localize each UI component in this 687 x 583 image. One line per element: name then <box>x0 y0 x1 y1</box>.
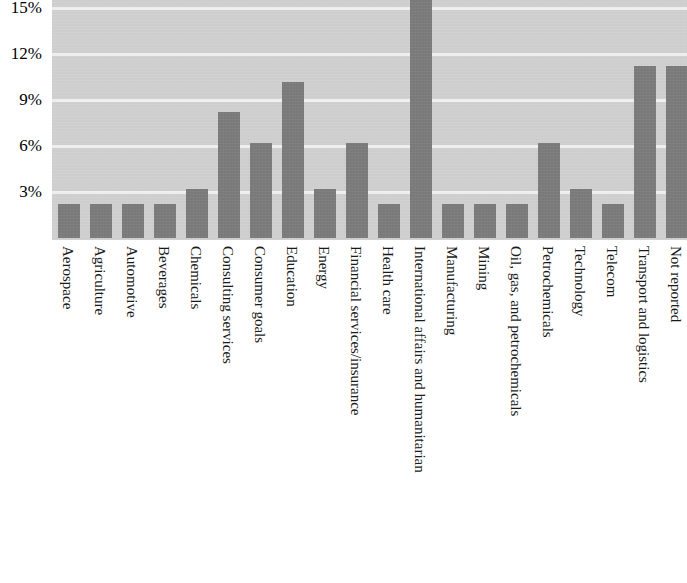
x-axis-tick-label: Aerospace <box>60 246 75 309</box>
bar <box>250 143 272 238</box>
y-axis-tick-label: 12% <box>11 44 42 64</box>
bar <box>314 189 336 238</box>
x-axis-tick-label: Education <box>284 246 299 307</box>
y-axis-tick-label: 15% <box>11 0 42 18</box>
bar <box>634 66 656 238</box>
bar <box>122 204 144 238</box>
x-axis-tick-label: Manufacturing <box>444 246 459 335</box>
bar <box>570 189 592 238</box>
bar-series <box>52 0 687 240</box>
x-axis-tick-label: Not reported <box>668 246 683 322</box>
x-axis-labels: AerospaceAgricultureAutomotiveBeveragesC… <box>52 240 687 583</box>
y-axis-tick-label: 9% <box>19 90 42 110</box>
bar <box>506 204 528 238</box>
x-axis-tick-label: Mining <box>476 246 491 290</box>
x-axis-tick-label: Health care <box>380 246 395 315</box>
bar <box>474 204 496 238</box>
x-axis-tick-label: Consulting services <box>220 246 235 364</box>
x-axis-tick-label: Oil, gas, and petrochemicals <box>508 246 523 416</box>
plot-area <box>52 0 687 240</box>
x-axis-tick-label: Consumer goals <box>252 246 267 343</box>
y-axis-tick-label: 3% <box>19 182 42 202</box>
bar <box>378 204 400 238</box>
x-axis-tick-label: Automotive <box>124 246 139 318</box>
bar <box>282 82 304 238</box>
bar <box>186 189 208 238</box>
bar <box>154 204 176 238</box>
x-axis-tick-label: Agriculture <box>92 246 107 315</box>
bar <box>410 0 432 238</box>
x-axis-tick-label: Transport and logistics <box>636 246 651 383</box>
bar <box>666 66 687 238</box>
y-axis-tick-label: 6% <box>19 136 42 156</box>
x-axis-tick-label: Chemicals <box>188 246 203 309</box>
x-axis-tick-label: Petrochemicals <box>540 246 555 338</box>
bar-chart: 15%12%9%6%3% AerospaceAgricultureAutomot… <box>0 0 687 583</box>
bar <box>90 204 112 238</box>
x-axis-tick-label: Technology <box>572 246 587 317</box>
x-axis-tick-label: International affairs and humanitarian <box>412 246 427 473</box>
x-axis-tick-label: Financial services/insurance <box>348 246 363 416</box>
x-axis-tick-label: Telecom <box>604 246 619 297</box>
x-axis-tick-label: Energy <box>316 246 331 289</box>
x-axis-tick-label: Beverages <box>156 246 171 308</box>
bar <box>538 143 560 238</box>
bar <box>218 112 240 238</box>
bar <box>58 204 80 238</box>
bar <box>442 204 464 238</box>
y-axis: 15%12%9%6%3% <box>0 0 48 240</box>
bar <box>602 204 624 238</box>
bar <box>346 143 368 238</box>
